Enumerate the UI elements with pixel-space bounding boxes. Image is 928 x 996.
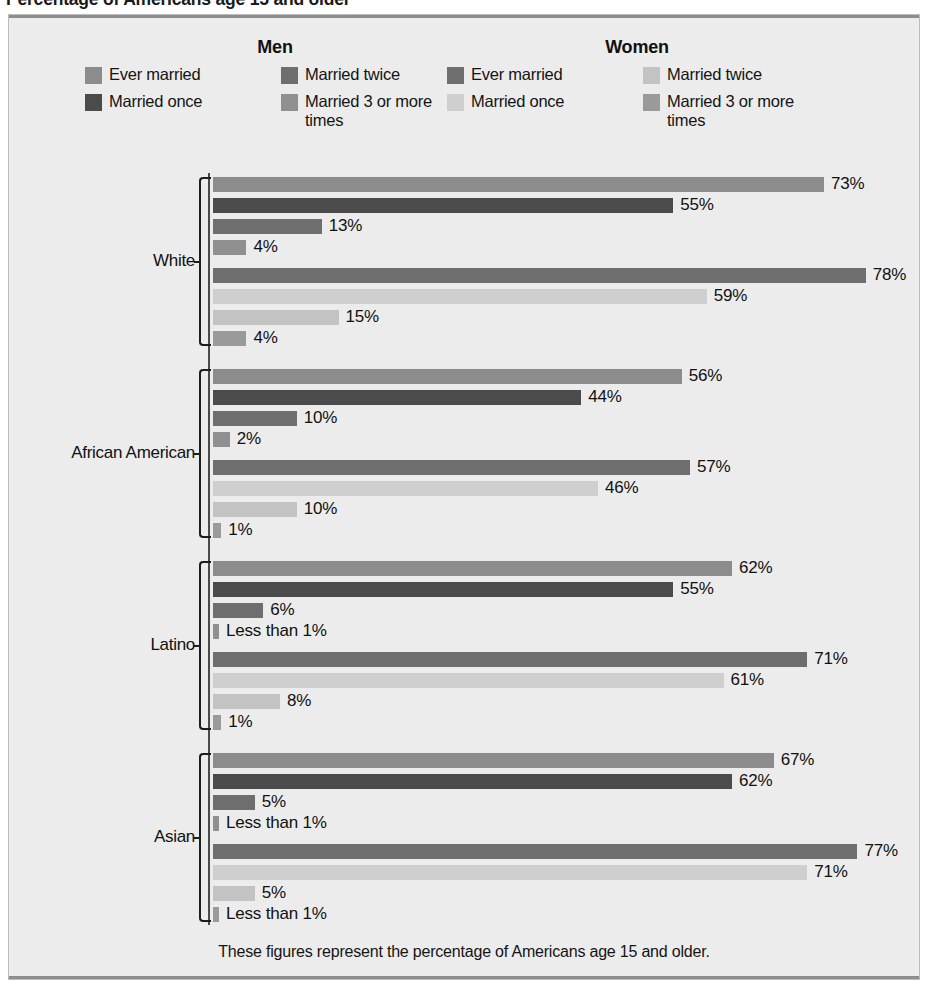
legend-row: Married once Married 3 or more times: [85, 92, 465, 130]
legend-heading-men: Men: [85, 37, 465, 58]
bar-value-label: 10%: [304, 499, 337, 519]
group-brace-notch: [194, 261, 201, 263]
bar-value-label: 44%: [588, 387, 621, 407]
bar-value-label: Less than 1%: [226, 813, 327, 833]
panel-top-divider: [9, 15, 919, 18]
bar[interactable]: [213, 432, 230, 447]
legend-item-women-married-twice[interactable]: Married twice: [637, 65, 827, 84]
bar[interactable]: [213, 865, 807, 880]
legend-item-women-ever-married[interactable]: Ever married: [447, 65, 637, 84]
legend-label: Married once: [109, 92, 202, 111]
bar[interactable]: [213, 331, 246, 346]
bar-value-label: 62%: [739, 558, 772, 578]
legend-item-men-married-3-or-more[interactable]: Married 3 or more times: [275, 92, 465, 130]
bar[interactable]: [213, 502, 297, 517]
group-label-asian: Asian: [0, 827, 195, 847]
bar[interactable]: [213, 310, 339, 325]
bar-value-label: 5%: [262, 792, 286, 812]
bar[interactable]: [213, 907, 219, 922]
bar[interactable]: [213, 198, 673, 213]
bar-value-label: 5%: [262, 883, 286, 903]
bar-value-label: 4%: [253, 237, 277, 257]
bar[interactable]: [213, 795, 255, 810]
legend-label: Ever married: [471, 65, 562, 84]
bar-value-label: 71%: [814, 862, 847, 882]
bar-value-label: 10%: [304, 408, 337, 428]
bar[interactable]: [213, 816, 219, 831]
legend-swatch-icon: [85, 67, 102, 84]
bar-value-label: 67%: [781, 750, 814, 770]
legend-group-men: Men Ever married Married twice Marri: [85, 37, 465, 130]
group-brace-notch: [194, 837, 201, 839]
bar[interactable]: [213, 652, 807, 667]
bar[interactable]: [213, 369, 682, 384]
bar-value-label: 6%: [270, 600, 294, 620]
bar[interactable]: [213, 523, 221, 538]
page-title: Percentage of Americans age 15 and older: [6, 0, 350, 10]
bar[interactable]: [213, 460, 690, 475]
legend-label: Married twice: [667, 65, 762, 84]
legend-item-men-married-twice[interactable]: Married twice: [275, 65, 465, 84]
bar-value-label: 55%: [680, 195, 713, 215]
bar[interactable]: [213, 753, 774, 768]
bar-value-label: 8%: [287, 691, 311, 711]
legend-row: Married once Married 3 or more times: [447, 92, 827, 130]
bar[interactable]: [213, 268, 866, 283]
plot-area: 73%55%13%4%78%59%15%4%White56%44%10%2%57…: [9, 173, 921, 925]
bar[interactable]: [213, 582, 673, 597]
legend-item-men-ever-married[interactable]: Ever married: [85, 65, 275, 84]
legend-heading-women: Women: [447, 37, 827, 58]
chart-footnote: These figures represent the percentage o…: [9, 943, 919, 961]
bar[interactable]: [213, 886, 255, 901]
group-brace-notch: [194, 645, 201, 647]
chart-panel: Men Ever married Married twice Marri: [8, 14, 920, 980]
legend-item-women-married-once[interactable]: Married once: [447, 92, 637, 111]
bar[interactable]: [213, 390, 581, 405]
legend-label: Married twice: [305, 65, 400, 84]
bar-value-label: 62%: [739, 771, 772, 791]
legend-swatch-icon: [281, 94, 298, 111]
bar-value-label: 1%: [228, 520, 252, 540]
group-label-african-american: African American: [0, 443, 195, 463]
bar[interactable]: [213, 694, 280, 709]
bar[interactable]: [213, 673, 724, 688]
legend-row: Ever married Married twice: [85, 65, 465, 84]
bar[interactable]: [213, 561, 732, 576]
legend-swatch-icon: [85, 94, 102, 111]
bar-value-label: 61%: [731, 670, 764, 690]
bar-value-label: 55%: [680, 579, 713, 599]
legend-swatch-icon: [447, 94, 464, 111]
bar-value-label: 4%: [253, 328, 277, 348]
legend-swatch-icon: [447, 67, 464, 84]
bar-value-label: 46%: [605, 478, 638, 498]
bar[interactable]: [213, 715, 221, 730]
bar-value-label: Less than 1%: [226, 904, 327, 924]
bar[interactable]: [213, 603, 263, 618]
legend-row: Ever married Married twice: [447, 65, 827, 84]
legend-swatch-icon: [281, 67, 298, 84]
bar[interactable]: [213, 774, 732, 789]
bar-value-label: 71%: [814, 649, 847, 669]
legend-item-men-married-once[interactable]: Married once: [85, 92, 275, 111]
bar-value-label: Less than 1%: [226, 621, 327, 641]
bar[interactable]: [213, 177, 824, 192]
bar-value-label: 1%: [228, 712, 252, 732]
bar-value-label: 57%: [697, 457, 730, 477]
bar-value-label: 73%: [831, 174, 864, 194]
legend-item-women-married-3-or-more[interactable]: Married 3 or more times: [637, 92, 827, 130]
legend-label: Married 3 or more times: [305, 92, 465, 130]
group-brace-notch: [194, 453, 201, 455]
legend-swatch-icon: [643, 67, 660, 84]
bar-value-label: 77%: [864, 841, 897, 861]
bar[interactable]: [213, 240, 246, 255]
bar[interactable]: [213, 481, 598, 496]
panel-bottom-divider: [9, 976, 919, 979]
bar[interactable]: [213, 411, 297, 426]
bar[interactable]: [213, 624, 219, 639]
group-label-latino: Latino: [0, 635, 195, 655]
chart-legend: Men Ever married Married twice Marri: [9, 37, 919, 157]
bar[interactable]: [213, 289, 707, 304]
legend-swatch-icon: [643, 94, 660, 111]
bar[interactable]: [213, 219, 322, 234]
bar[interactable]: [213, 844, 857, 859]
